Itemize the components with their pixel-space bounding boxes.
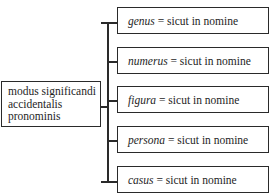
leaf-value: = sicut in nomine	[165, 134, 248, 146]
leaf-persona: persona = sicut in nomine	[117, 126, 269, 153]
branch-figura	[107, 100, 117, 102]
root-line-3: pronominis	[8, 110, 100, 123]
leaf-figura: figura = sicut in nomine	[117, 86, 269, 113]
leaf-term: genus	[128, 15, 155, 27]
leaf-genus: genus = sicut in nomine	[117, 7, 269, 34]
branch-genus	[101, 22, 117, 24]
branch-casus	[101, 181, 117, 183]
root-line-2: accidentalis	[8, 98, 100, 111]
leaf-value: = sicut in nomine	[156, 94, 239, 106]
leaf-numerus: numerus = sicut in nomine	[117, 47, 269, 74]
leaf-term: casus	[128, 174, 154, 186]
leaf-term: numerus	[128, 55, 168, 67]
root-line-1: modus significandi	[8, 85, 100, 98]
branch-persona	[107, 140, 117, 142]
leaf-casus: casus = sicut in nomine	[117, 166, 269, 193]
leaf-term: figura	[128, 94, 156, 106]
leaf-value: = sicut in nomine	[155, 15, 238, 27]
trunk-line	[107, 22, 109, 182]
leaf-term: persona	[128, 134, 165, 146]
leaf-value: = sicut in nomine	[168, 55, 251, 67]
leaf-value: = sicut in nomine	[154, 174, 237, 186]
root-node: modus significandi accidentalis pronomin…	[1, 81, 101, 127]
branch-numerus	[107, 61, 117, 63]
